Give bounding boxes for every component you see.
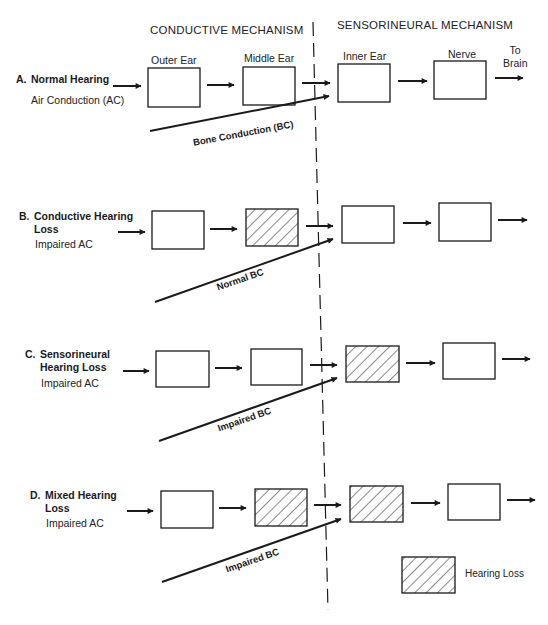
hearing-loss-diagram	[0, 0, 548, 625]
row-a-outer-ear-box	[148, 68, 200, 107]
row-c-middle-ear-box	[251, 349, 302, 385]
row-a-nerve-box	[434, 61, 486, 99]
row-c-outer-ear-box	[156, 351, 209, 387]
row-d-middle-ear-box	[255, 489, 307, 526]
row-d-outer-ear-box	[161, 491, 213, 528]
mechanism-divider-dashed-line	[313, 22, 328, 610]
row-a-flow	[113, 61, 523, 131]
row-d-flow	[127, 484, 535, 582]
legend-hatched-swatch	[402, 557, 455, 593]
row-a-inner-ear-box	[338, 64, 390, 102]
row-b-middle-ear-box	[246, 209, 298, 246]
row-c-inner-ear-box	[346, 346, 399, 382]
row-b-flow	[118, 203, 527, 302]
row-b-inner-ear-box	[342, 206, 394, 243]
row-c-nerve-box	[443, 343, 495, 379]
row-d-inner-ear-box	[350, 486, 403, 522]
row-d-nerve-box	[448, 484, 500, 520]
row-b-outer-ear-box	[152, 211, 204, 249]
row-a-middle-ear-box	[243, 67, 295, 105]
row-b-nerve-box	[439, 203, 491, 241]
row-c-flow	[123, 343, 530, 441]
